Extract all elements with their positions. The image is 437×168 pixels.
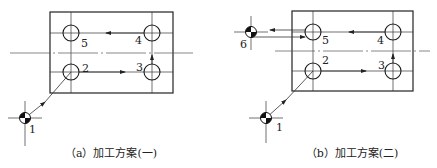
label-1: 1 <box>29 123 36 136</box>
label-4: 4 <box>377 34 384 47</box>
label-2: 2 <box>82 62 89 75</box>
diagram-a: 5 4 2 3 1 （a）加工方案(一) <box>8 12 193 160</box>
label-3: 3 <box>136 61 143 74</box>
diagram-b: 5 4 2 3 6 1 （b）加工方案(二) <box>234 11 430 160</box>
caption-b: （b）加工方案(二) <box>306 146 399 160</box>
label-5: 5 <box>322 34 329 47</box>
label-4: 4 <box>135 34 142 47</box>
label-3: 3 <box>378 59 385 72</box>
path-1-2 <box>45 72 71 102</box>
path-1-2 <box>286 71 313 100</box>
label-5: 5 <box>81 37 88 50</box>
tool-position-1-icon <box>8 101 42 146</box>
label-6: 6 <box>240 38 247 51</box>
workpiece-outline <box>50 12 173 93</box>
caption-a: （a）加工方案(一) <box>65 146 157 160</box>
machining-plan-diagrams: 5 4 2 3 1 （a）加工方案(一) <box>0 0 437 168</box>
label-2: 2 <box>322 54 329 67</box>
label-1: 1 <box>276 121 283 134</box>
